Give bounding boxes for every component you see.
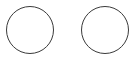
empty-circle-left[interactable]: [6, 6, 54, 54]
empty-circle-right[interactable]: [81, 6, 129, 54]
